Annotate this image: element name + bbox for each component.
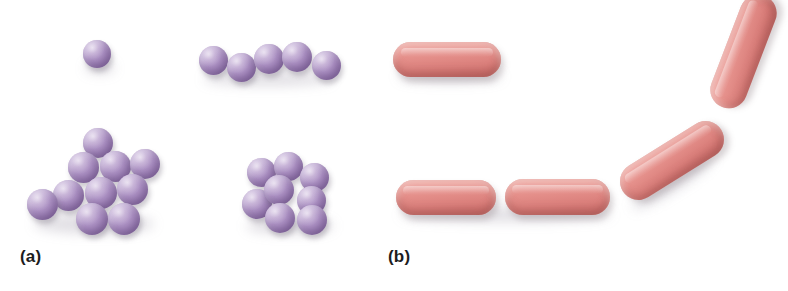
coccus-cell: [282, 42, 312, 72]
panel-b-label: (b): [388, 248, 410, 265]
bacillus-cell: [396, 180, 496, 215]
coccus-cell: [227, 53, 256, 82]
bacillus-cell: [505, 179, 610, 215]
bacterial-morphology-figure: (a) (b): [0, 0, 788, 291]
coccus-cell: [108, 203, 140, 235]
coccus-cell: [117, 174, 148, 205]
coccus-cell: [199, 46, 228, 75]
coccus-cell: [264, 175, 294, 205]
coccus-cell: [297, 205, 327, 235]
bacillus-cell: [705, 0, 782, 114]
coccus-cell: [83, 40, 111, 68]
group-shadow: [203, 72, 333, 86]
coccus-cell: [27, 189, 58, 220]
coccus-cell: [76, 203, 108, 235]
coccus-cell: [265, 203, 295, 233]
panel-a-label: (a): [20, 248, 41, 265]
coccus-cell: [254, 44, 284, 74]
bacillus-cell: [393, 42, 501, 77]
coccus-cell: [312, 51, 341, 80]
